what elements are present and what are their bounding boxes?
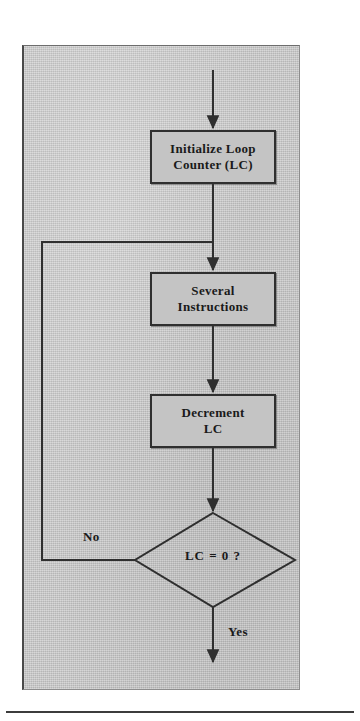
process-box-line: Counter (LC) [173, 157, 253, 173]
process-box-line: Instructions [178, 299, 249, 315]
scanned-page: Initialize Loop Counter (LC) Several Ins… [0, 0, 360, 721]
page-separator-rule [6, 711, 354, 713]
process-box-line: Decrement [181, 405, 244, 421]
branch-label-yes: Yes [228, 624, 248, 640]
decision-label-lc-equals-zero: LC = 0 ? [153, 548, 273, 564]
branch-label-no: No [83, 529, 100, 545]
process-box-line: Initialize Loop [170, 141, 256, 157]
process-box-several-instructions: Several Instructions [150, 272, 276, 326]
process-box-line: Several [191, 283, 234, 299]
process-box-decrement-lc: Decrement LC [150, 394, 276, 448]
process-box-line: LC [204, 421, 223, 437]
process-box-initialize-loop-counter: Initialize Loop Counter (LC) [150, 130, 276, 184]
